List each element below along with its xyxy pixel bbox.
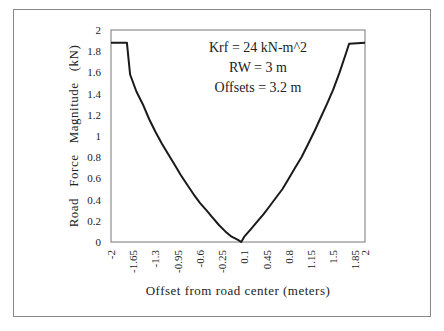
y-tick-label: 0.8 bbox=[87, 151, 101, 163]
y-tick-label: 0 bbox=[96, 236, 102, 248]
annotation-rw: RW = 3 m bbox=[229, 60, 287, 75]
x-tick-label: -1.3 bbox=[149, 250, 161, 268]
x-tick-label: -2 bbox=[105, 250, 117, 259]
y-tick-label: 0.6 bbox=[87, 172, 101, 184]
y-tick-label: 0.2 bbox=[87, 215, 101, 227]
x-tick-label: 0.45 bbox=[261, 250, 273, 270]
y-axis-ticks: 00.20.40.60.811.21.41.61.82 bbox=[87, 24, 101, 248]
x-tick-label: -0.25 bbox=[216, 250, 228, 273]
x-tick-label: -1.65 bbox=[127, 250, 139, 273]
y-axis-label: Road Force Magnitude (kN) bbox=[66, 45, 81, 228]
x-tick-label: 0.8 bbox=[283, 250, 295, 264]
x-axis-label: Offset from road center (meters) bbox=[146, 283, 331, 298]
y-tick-label: 1.4 bbox=[87, 88, 101, 100]
x-tick-label: 1.5 bbox=[327, 250, 339, 264]
annotation-krf: Krf = 24 kN-m^2 bbox=[209, 40, 307, 55]
y-tick-label: 0.4 bbox=[87, 194, 101, 206]
x-tick-label: 2 bbox=[359, 250, 371, 256]
x-tick-label: -0.95 bbox=[172, 250, 184, 273]
x-tick-label: 0.1 bbox=[238, 250, 250, 264]
y-tick-label: 2 bbox=[96, 24, 102, 36]
x-tick-label: 1.15 bbox=[305, 250, 317, 270]
y-tick-label: 1.2 bbox=[87, 109, 101, 121]
annotation-offsets: Offsets = 3.2 m bbox=[215, 80, 302, 95]
line-chart: 00.20.40.60.811.21.41.61.82 -2-1.65-1.3-… bbox=[0, 0, 444, 331]
x-tick-label: -0.6 bbox=[194, 250, 206, 268]
y-tick-label: 1.6 bbox=[87, 66, 101, 78]
annotation-box: Krf = 24 kN-m^2 RW = 3 m Offsets = 3.2 m bbox=[209, 40, 307, 95]
x-axis-ticks: -2-1.65-1.3-0.95-0.6-0.250.10.450.81.151… bbox=[105, 250, 371, 273]
y-tick-label: 1 bbox=[96, 130, 102, 142]
y-tick-label: 1.8 bbox=[87, 45, 101, 57]
